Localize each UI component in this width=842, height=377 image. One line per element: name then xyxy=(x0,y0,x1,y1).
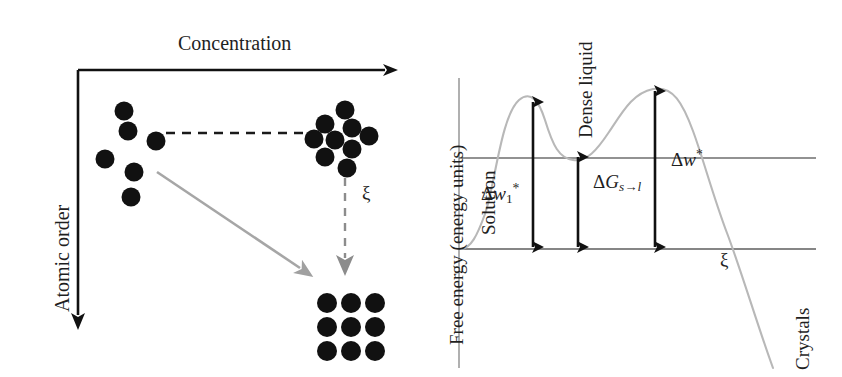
reaction-coordinate-label-left: ξ xyxy=(362,183,370,202)
energy-label-barrier-liquid: Δw1* xyxy=(481,182,519,206)
particles-dense-liquid xyxy=(305,101,379,178)
var-glyph-2: G xyxy=(605,171,619,192)
sub-glyph-2: s→l xyxy=(619,179,641,194)
y-axis-label-atomic-order: Atomic order xyxy=(52,205,72,312)
delta-glyph-2: Δ xyxy=(593,171,605,192)
phase-diagram-svg xyxy=(0,0,421,377)
var-glyph-1: w xyxy=(493,183,506,204)
free-energy-landscape-panel: Free energy (energy units) Solution Dens… xyxy=(421,0,842,377)
y-axis-label-free-energy: Free energy (energy units) xyxy=(447,145,466,345)
state-label-dense-liquid: Dense liquid xyxy=(576,41,595,138)
sup-glyph-3: * xyxy=(696,147,703,162)
delta-glyph-3: Δ xyxy=(671,149,683,170)
delta-glyph-1: Δ xyxy=(481,183,493,204)
phase-diagram-panel: Concentration Atomic order ξ xyxy=(0,0,421,377)
energy-label-delta-g-s-to-l: ΔGs→l xyxy=(593,172,641,193)
sup-glyph-1: * xyxy=(513,181,520,196)
particles-crystal-lattice xyxy=(317,293,385,361)
particles-solution xyxy=(96,102,166,207)
x-axis-label-reaction-coordinate: ξ xyxy=(720,250,728,269)
free-energy-curve xyxy=(461,88,773,368)
var-glyph-3: w xyxy=(683,149,696,170)
sub-glyph-1: 1 xyxy=(506,191,513,206)
pathway-classical-one-step xyxy=(157,172,300,268)
energy-label-barrier-crystal: Δw* xyxy=(671,148,703,169)
x-axis-label-concentration: Concentration xyxy=(178,33,291,53)
state-label-crystals: Crystals xyxy=(793,308,812,370)
